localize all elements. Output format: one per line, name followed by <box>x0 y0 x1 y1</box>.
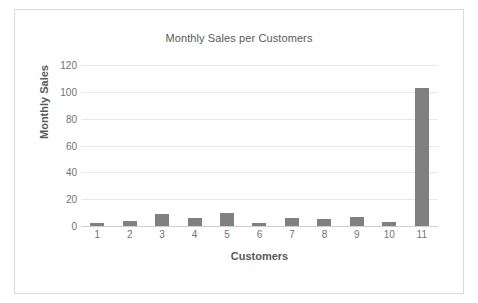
bar[interactable] <box>188 218 202 226</box>
bar-slot <box>211 65 243 226</box>
bar[interactable] <box>350 217 364 226</box>
bar-series <box>81 65 438 226</box>
x-axis-tick-labels: 1234567891011 <box>81 229 438 245</box>
bar-slot <box>178 65 210 226</box>
x-axis-tick-label: 7 <box>289 229 295 240</box>
bar-slot <box>146 65 178 226</box>
x-axis-tick-label: 8 <box>322 229 328 240</box>
bar[interactable] <box>155 214 169 226</box>
bar[interactable] <box>382 222 396 226</box>
y-axis-tick-label: 80 <box>66 113 77 124</box>
bar[interactable] <box>415 88 429 226</box>
y-axis-tick-label: 20 <box>66 194 77 205</box>
y-axis-tick-label: 120 <box>60 60 77 71</box>
bar-slot <box>243 65 275 226</box>
bar[interactable] <box>90 223 104 226</box>
x-axis-tick-label: 4 <box>192 229 198 240</box>
bar[interactable] <box>220 213 234 226</box>
bar-slot <box>341 65 373 226</box>
x-axis-tick-label: 3 <box>159 229 165 240</box>
x-axis-tick-label: 10 <box>384 229 395 240</box>
bar[interactable] <box>123 221 137 226</box>
y-axis-tick-label: 40 <box>66 167 77 178</box>
x-axis-tick-label: 1 <box>94 229 100 240</box>
y-axis-tick-label: 60 <box>66 140 77 151</box>
x-axis-tick-label: 9 <box>354 229 360 240</box>
x-axis-title: Customers <box>81 250 438 262</box>
plot-area <box>81 65 438 226</box>
bar[interactable] <box>252 223 266 226</box>
x-axis-tick-label: 5 <box>224 229 230 240</box>
bar-slot <box>373 65 405 226</box>
y-axis-tick-label: 100 <box>60 86 77 97</box>
bar-slot <box>113 65 145 226</box>
bar-slot <box>276 65 308 226</box>
gridline <box>81 226 438 227</box>
x-axis-tick-label: 11 <box>417 229 427 240</box>
bar-slot <box>406 65 438 226</box>
x-axis-tick-label: 2 <box>127 229 133 240</box>
bar[interactable] <box>285 218 299 226</box>
bar-slot <box>81 65 113 226</box>
x-axis-tick-label: 6 <box>257 229 263 240</box>
bar[interactable] <box>317 219 331 226</box>
y-axis-tick-label: 0 <box>71 221 77 232</box>
chart-container: Monthly Sales per Customers Monthly Sale… <box>14 9 464 294</box>
bar-slot <box>308 65 340 226</box>
y-axis-tick-labels: 020406080100120 <box>45 65 77 226</box>
chart-title: Monthly Sales per Customers <box>15 32 463 44</box>
